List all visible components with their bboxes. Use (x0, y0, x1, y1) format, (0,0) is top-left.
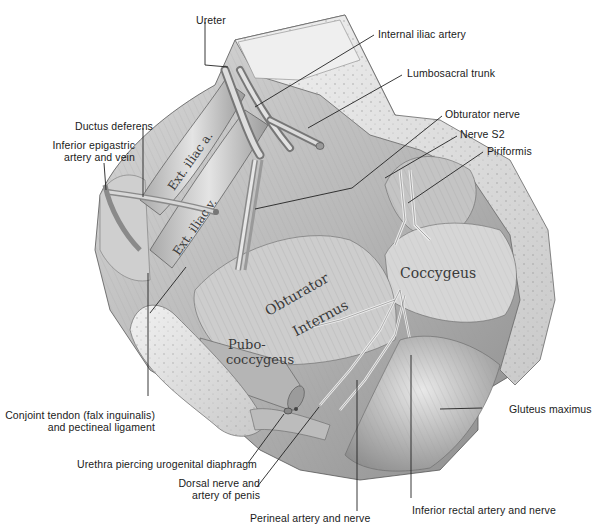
label-inferior-epigastric-line1: Inferior epigastric (25, 139, 135, 151)
label-conjoint-tendon-line2: and pectineal ligament (5, 421, 155, 433)
label-conjoint-tendon-line1: Conjoint tendon (falx inguinalis) (5, 409, 155, 421)
anatomical-figure: Ext. iliac a. Ext. iliac v. Obturator In… (0, 0, 595, 531)
label-perineal: Perineal artery and nerve (250, 512, 370, 524)
inline-label-coccygeus: Coccygeus (400, 265, 476, 281)
inline-label-pubo: Pubo- (228, 337, 266, 352)
label-ureter: Ureter (196, 14, 226, 26)
label-internal-iliac-artery: Internal iliac artery (378, 28, 466, 40)
label-dorsal-nerve: Dorsal nerve and artery of penis (140, 477, 260, 501)
label-ductus-deferens: Ductus deferens (75, 120, 153, 132)
inline-label-pubococcygeus: coccygeus (226, 352, 294, 367)
label-inferior-rectal: Inferior rectal artery and nerve (412, 504, 556, 516)
label-dorsal-nerve-line1: Dorsal nerve and (140, 477, 260, 489)
label-inferior-epigastric: Inferior epigastric artery and vein (25, 139, 135, 163)
label-urethra: Urethra piercing urogenital diaphragm (77, 458, 257, 470)
label-lumbosacral-trunk: Lumbosacral trunk (407, 67, 495, 79)
label-inferior-epigastric-line2: artery and vein (25, 151, 135, 163)
label-nerve-s2: Nerve S2 (460, 128, 505, 140)
label-obturator-nerve: Obturator nerve (445, 108, 520, 120)
label-conjoint-tendon: Conjoint tendon (falx inguinalis) and pe… (5, 409, 155, 433)
label-dorsal-nerve-line2: artery of penis (140, 489, 260, 501)
illustration-artwork (0, 0, 595, 531)
label-gluteus-maximus: Gluteus maximus (509, 403, 592, 415)
label-piriformis: Piriformis (487, 145, 532, 157)
